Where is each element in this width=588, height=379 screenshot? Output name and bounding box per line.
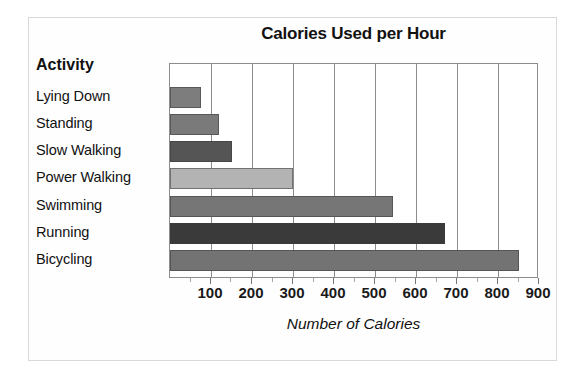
bar-slot <box>170 84 537 111</box>
x-tick-label: 800 <box>475 284 519 301</box>
category-label: Power Walking <box>36 164 169 191</box>
chart-figure: Calories Used per Hour Activity Lying Do… <box>0 0 588 379</box>
x-axis-tick-labels: 100200300400500600700800900 <box>169 284 538 306</box>
category-label: Lying Down <box>36 83 169 110</box>
bar-slot <box>170 138 537 165</box>
x-tick-minor <box>313 278 314 282</box>
bar-slot <box>170 193 537 220</box>
bar <box>170 223 445 244</box>
bar-slot <box>170 111 537 138</box>
bar-slot <box>170 165 537 192</box>
category-label: Running <box>36 219 169 246</box>
category-label: Bicycling <box>36 246 169 273</box>
x-tick-label: 400 <box>311 284 355 301</box>
bar <box>170 87 201 108</box>
category-label: Standing <box>36 110 169 137</box>
x-tick-minor <box>436 278 437 282</box>
bar <box>170 196 393 217</box>
x-tick-label: 500 <box>352 284 396 301</box>
bar <box>170 168 293 189</box>
x-tick-minor <box>518 278 519 282</box>
x-tick-label: 900 <box>516 284 560 301</box>
chart-title: Calories Used per Hour <box>169 24 538 44</box>
x-tick-minor <box>190 278 191 282</box>
x-tick-minor <box>477 278 478 282</box>
bar <box>170 141 232 162</box>
category-label: Slow Walking <box>36 137 169 164</box>
x-tick-label: 600 <box>393 284 437 301</box>
x-tick-minor <box>354 278 355 282</box>
bar-slot <box>170 247 537 274</box>
x-axis-title: Number of Calories <box>169 315 538 333</box>
plot-area <box>169 63 538 278</box>
x-tick-label: 700 <box>434 284 478 301</box>
category-axis-labels: Lying DownStandingSlow WalkingPower Walk… <box>36 83 169 273</box>
x-tick-minor <box>272 278 273 282</box>
x-tick-label: 300 <box>270 284 314 301</box>
x-tick-minor <box>230 278 231 282</box>
x-tick-minor <box>395 278 396 282</box>
bar <box>170 250 519 271</box>
bar-series <box>170 84 537 274</box>
bar <box>170 114 219 135</box>
category-label: Swimming <box>36 192 169 219</box>
category-axis-title: Activity <box>36 56 94 74</box>
bar-slot <box>170 220 537 247</box>
x-tick-label: 100 <box>188 284 232 301</box>
x-tick-label: 200 <box>229 284 273 301</box>
